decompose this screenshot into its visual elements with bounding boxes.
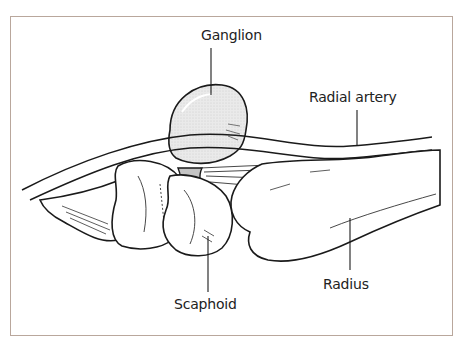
label-ganglion: Ganglion	[201, 28, 262, 42]
label-scaphoid: Scaphoid	[174, 297, 237, 311]
ganglion-cyst	[169, 85, 247, 164]
radius-bone	[231, 150, 440, 261]
label-radius: Radius	[323, 277, 369, 291]
scaphoid-bone	[163, 175, 232, 256]
label-radial-artery: Radial artery	[309, 90, 397, 104]
wrist-anatomy-illustration	[0, 0, 466, 347]
